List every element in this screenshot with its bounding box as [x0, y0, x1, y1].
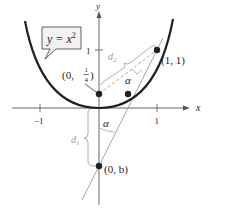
tangent-point-label: (1, 1)	[161, 54, 185, 67]
svg-text:1: 1	[85, 66, 89, 74]
focus-point	[96, 91, 102, 97]
angle-arc-upper	[132, 69, 142, 74]
alpha-upper-label: α	[125, 74, 131, 86]
parabola-diagram: x −1 1 y 1 d1 d2 α	[0, 0, 228, 212]
svg-text:(0,: (0,	[62, 69, 74, 82]
y-axis-label: y	[95, 1, 100, 11]
y-intercept-label: (0, b)	[104, 163, 128, 176]
d1-bracket: d1	[71, 108, 96, 166]
x-axis-label: x	[195, 102, 201, 113]
x-axis-arrow-icon	[183, 106, 190, 111]
svg-text:4: 4	[85, 76, 89, 84]
svg-text:): )	[90, 69, 94, 82]
d2-label: d2	[108, 51, 117, 64]
d1-label: d1	[71, 134, 80, 147]
curve-point	[125, 91, 131, 97]
x-tick-label-1: 1	[155, 116, 160, 126]
tangent-point	[154, 47, 160, 53]
y-axis-arrow-icon	[97, 11, 102, 18]
x-tick-label-neg1: −1	[34, 116, 44, 126]
y-tick-label-1: 1	[86, 46, 91, 56]
tangent-line	[82, 38, 163, 200]
equation-callout: y = x2	[42, 27, 81, 59]
focus-label: (0, 1 4 )	[62, 66, 96, 92]
alpha-lower-label: α	[103, 117, 109, 129]
equation-label: y = x2	[46, 31, 76, 46]
y-intercept-point	[96, 163, 102, 169]
